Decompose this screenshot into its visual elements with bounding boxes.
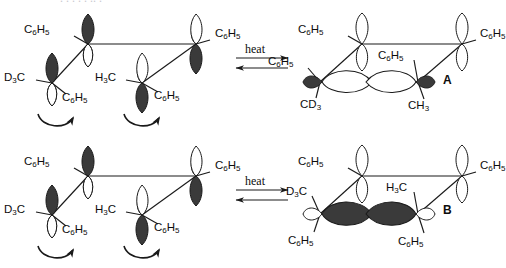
label-b-c6h5-top-right: C6H5 bbox=[215, 160, 241, 173]
label-A-cd3: CD3 bbox=[300, 99, 321, 112]
bond-right bbox=[142, 176, 196, 215]
structure-letter-B: B bbox=[443, 203, 452, 217]
rotation-arrow-left bbox=[38, 246, 73, 258]
heat-label-bottom: heat bbox=[245, 174, 265, 189]
orbital-A-tl-lower bbox=[356, 44, 367, 71]
orbital-bottom-middle-upper-lobe bbox=[137, 185, 148, 215]
reactant-top-structure bbox=[36, 14, 210, 126]
tick-mid-up bbox=[414, 192, 418, 214]
structure-letter-A: A bbox=[443, 73, 452, 87]
rotation-arrow-right bbox=[124, 114, 159, 126]
orbital-A-tl-upper bbox=[356, 13, 368, 44]
label-c6h5-bottom-right: C6H5 bbox=[154, 90, 180, 103]
orbital-A-horiz-right bbox=[366, 71, 416, 93]
label-h3c-middle: H3C bbox=[95, 72, 116, 85]
orbital-top-left-lower-lobe bbox=[83, 44, 92, 67]
rotation-arrow-right bbox=[124, 246, 159, 258]
label-c6h5-bottom-left: C6H5 bbox=[62, 92, 88, 105]
tick-mid-up bbox=[414, 60, 418, 82]
label-A-c6h5-top-right: C6H5 bbox=[480, 28, 506, 41]
orbital-A-tr-upper bbox=[456, 13, 468, 44]
label-B-h3c: H3C bbox=[386, 182, 407, 195]
label-B-c6h5-lower-right: C6H5 bbox=[398, 236, 424, 249]
heat-label-top: heat bbox=[245, 42, 265, 57]
equilibrium-arrow-bottom bbox=[236, 190, 288, 200]
orbital-A-tr-lower bbox=[456, 44, 467, 71]
label-d3c-left: D3C bbox=[4, 72, 25, 85]
label-c6h5-top-right: C6H5 bbox=[215, 28, 241, 41]
label-A-c6h5-top-left: C6H5 bbox=[298, 24, 324, 37]
orbital-B-tr-upper bbox=[456, 145, 468, 176]
orbital-B-tl-upper bbox=[356, 145, 368, 176]
reactant-bottom-structure bbox=[36, 146, 210, 258]
label-B-c6h5-lower-left: C6H5 bbox=[288, 235, 314, 248]
label-A-c6h5-left: C6H5 bbox=[268, 56, 294, 69]
orbital-B-tr-lower bbox=[456, 176, 467, 203]
label-B-c6h5-top-left: C6H5 bbox=[298, 156, 324, 169]
orbital-top-left-lower-lobe bbox=[83, 176, 92, 199]
orbital-bottom-left-lower-lobe bbox=[47, 83, 56, 106]
label-A-c6h5-center: C6H5 bbox=[378, 50, 404, 63]
orbital-bottom-middle-upper-lobe bbox=[137, 53, 148, 83]
label-B-c6h5-top-right: C6H5 bbox=[480, 160, 506, 173]
bond-right bbox=[142, 44, 196, 83]
label-b-c6h5-top-left: C6H5 bbox=[24, 156, 50, 169]
orbital-B-tl-lower bbox=[356, 176, 367, 203]
rotation-arrow-left bbox=[38, 114, 73, 126]
label-b-d3c-left: D3C bbox=[4, 204, 25, 217]
orbital-top-right-upper-lobe bbox=[191, 146, 202, 176]
orbital-top-right-upper-lobe bbox=[191, 14, 202, 44]
label-b-c6h5-bottom-right: C6H5 bbox=[154, 222, 180, 235]
orbital-A-term-right bbox=[416, 76, 435, 88]
label-c6h5-top-left: C6H5 bbox=[24, 24, 50, 37]
label-A-ch3: CH3 bbox=[408, 100, 429, 113]
orbital-B-horiz-right bbox=[366, 202, 416, 225]
orbital-bottom-left-lower-lobe bbox=[47, 215, 56, 238]
label-b-c6h5-bottom-left: C6H5 bbox=[62, 224, 88, 237]
label-B-d3c: D3C bbox=[286, 186, 307, 199]
label-b-h3c-middle: H3C bbox=[95, 204, 116, 217]
